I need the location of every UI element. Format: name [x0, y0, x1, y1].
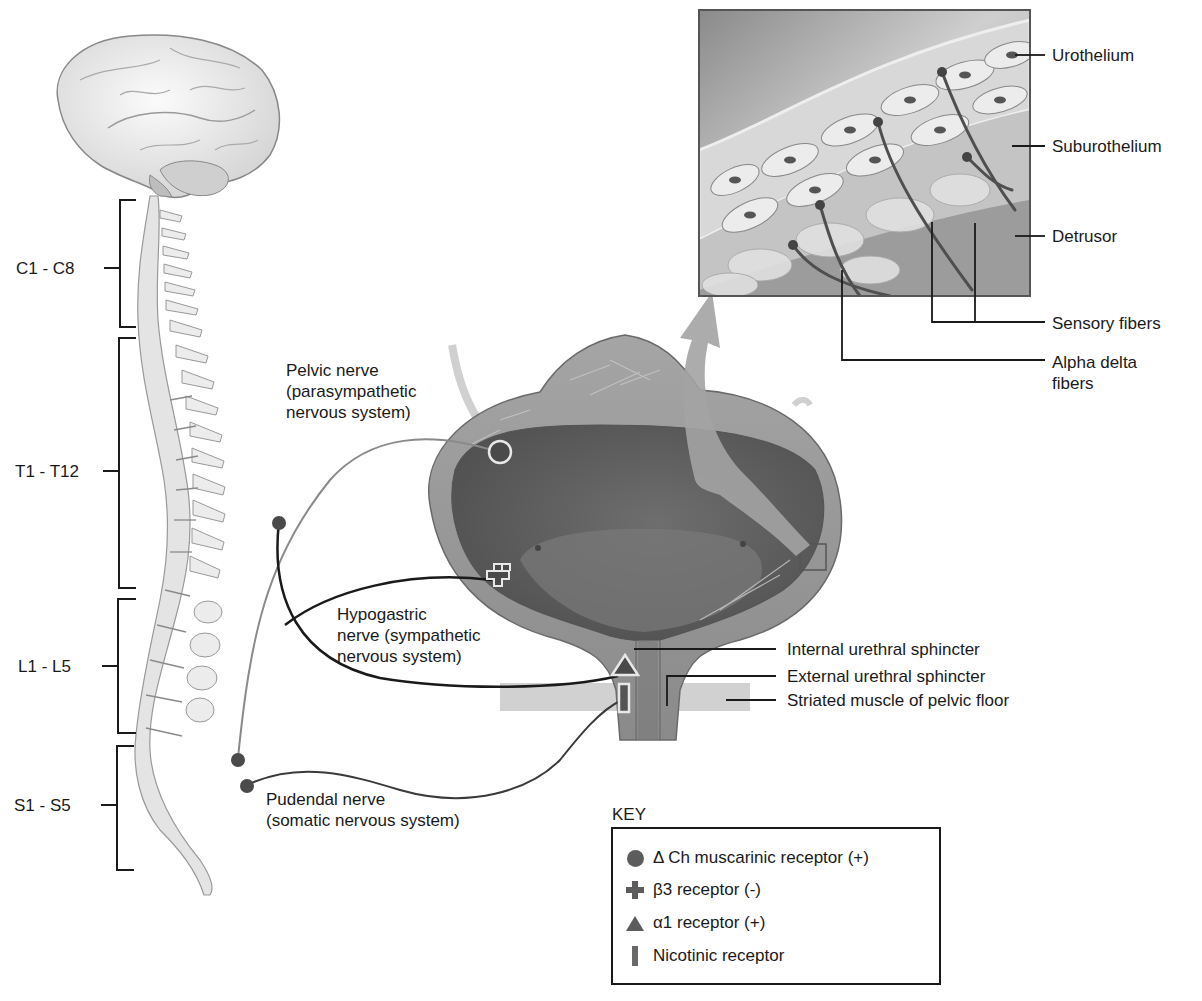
pudendal-nerve-line-1: Pudendal nerve — [266, 789, 460, 810]
internal-urethral-sphincter-label: Internal urethral sphincter — [787, 639, 980, 660]
vertical-bar-icon — [625, 945, 645, 967]
spine-label-thoracic: T1 - T12 — [15, 461, 79, 482]
external-urethral-sphincter-label: External urethral sphincter — [787, 666, 985, 687]
legend-item-beta3: β3 receptor (-) — [625, 877, 761, 903]
spine-label-cervical: C1 - C8 — [16, 258, 75, 279]
alpha-delta-fibers-label: Alpha delta fibers — [1052, 352, 1137, 394]
muscarinic-receptor-marker — [489, 441, 511, 463]
plus-icon — [625, 879, 645, 901]
sensory-fibers-label: Sensory fibers — [1052, 313, 1161, 334]
tissue-inset — [699, 10, 1038, 297]
legend-item-nicotinic: Nicotinic receptor — [625, 943, 784, 969]
alpha-delta-line-2: fibers — [1052, 373, 1137, 394]
key-title: KEY — [612, 805, 646, 825]
urothelium-label: Urothelium — [1052, 45, 1134, 66]
legend-box: Δ Ch muscarinic receptor (+) β3 receptor… — [611, 827, 941, 985]
pelvic-nerve-line-1: Pelvic nerve — [286, 360, 416, 381]
nicotinic-receptor-marker — [619, 684, 629, 712]
filled-circle-icon — [625, 847, 645, 869]
hypogastric-nerve-line-2: nerve (sympathetic — [337, 625, 481, 646]
hypogastric-nerve-label: Hypogastric nerve (sympathetic nervous s… — [337, 604, 481, 667]
triangle-icon — [625, 912, 645, 934]
pelvic-floor-muscle-label: Striated muscle of pelvic floor — [787, 690, 1009, 711]
pelvic-root-dot — [231, 753, 245, 767]
pudendal-root-dot — [240, 779, 254, 793]
pelvic-nerve-label: Pelvic nerve (parasympathetic nervous sy… — [286, 360, 416, 423]
pudendal-nerve-label: Pudendal nerve (somatic nervous system) — [266, 789, 460, 831]
spine-label-lumbar: L1 - L5 — [18, 656, 71, 677]
pelvic-nerve-line-2: (parasympathetic — [286, 381, 416, 402]
brain-illustration — [57, 35, 279, 197]
spine-illustration — [135, 196, 225, 895]
legend-label: Nicotinic receptor — [653, 946, 784, 966]
legend-label: β3 receptor (-) — [653, 880, 761, 900]
detrusor-label: Detrusor — [1052, 226, 1117, 247]
bladder-innervation-diagram: C1 - C8 T1 - T12 L1 - L5 S1 - S5 Pelvic … — [0, 0, 1202, 1001]
hypogastric-nerve-line-3: nervous system) — [337, 646, 481, 667]
legend-label: Δ Ch muscarinic receptor (+) — [653, 848, 869, 868]
alpha-delta-line-1: Alpha delta — [1052, 352, 1137, 373]
legend-item-alpha1: α1 receptor (+) — [625, 910, 765, 936]
spine-label-sacral: S1 - S5 — [14, 795, 71, 816]
pelvic-nerve-line-3: nervous system) — [286, 402, 416, 423]
suburothelium-label: Suburothelium — [1052, 136, 1162, 157]
legend-label: α1 receptor (+) — [653, 913, 765, 933]
legend-item-muscarinic: Δ Ch muscarinic receptor (+) — [625, 845, 869, 871]
hypogastric-root-dot — [272, 516, 286, 530]
illustration-canvas — [0, 0, 1202, 1001]
hypogastric-nerve-line-1: Hypogastric — [337, 604, 481, 625]
spine-segment-brackets — [101, 200, 136, 870]
pudendal-nerve-line-2: (somatic nervous system) — [266, 810, 460, 831]
